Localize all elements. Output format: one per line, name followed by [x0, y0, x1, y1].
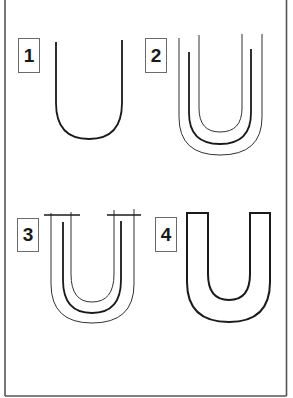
step-2-number: 2 — [151, 45, 162, 67]
step-2-label: 2 — [145, 38, 167, 73]
step-3-number: 3 — [23, 224, 34, 246]
step-1-label: 1 — [18, 38, 40, 73]
step-4-number: 4 — [161, 224, 172, 246]
step-1-number: 1 — [24, 45, 35, 67]
outer-outline — [179, 34, 262, 155]
step-4-drawing — [187, 213, 270, 322]
step-1-drawing — [56, 40, 122, 139]
skeleton-line — [63, 221, 121, 313]
step-2-drawing — [179, 34, 262, 155]
step-3-drawing — [44, 209, 141, 323]
step-4-label: 4 — [155, 217, 177, 252]
step-3-label: 3 — [17, 218, 39, 252]
inner-outline — [199, 34, 242, 132]
inner-outline — [71, 210, 114, 302]
